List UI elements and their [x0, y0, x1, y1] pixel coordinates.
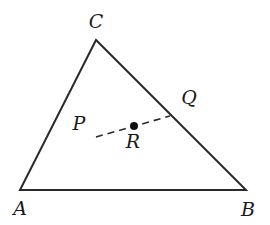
triangle-abc — [20, 40, 246, 190]
label-b: B — [240, 198, 255, 220]
label-a: A — [11, 197, 27, 219]
point-r-dot — [130, 122, 138, 130]
label-p: P — [72, 112, 87, 134]
label-q: Q — [181, 86, 197, 108]
label-c: C — [89, 10, 104, 32]
label-r: R — [125, 130, 140, 152]
triangle-diagram: C A B P Q R — [0, 0, 270, 225]
